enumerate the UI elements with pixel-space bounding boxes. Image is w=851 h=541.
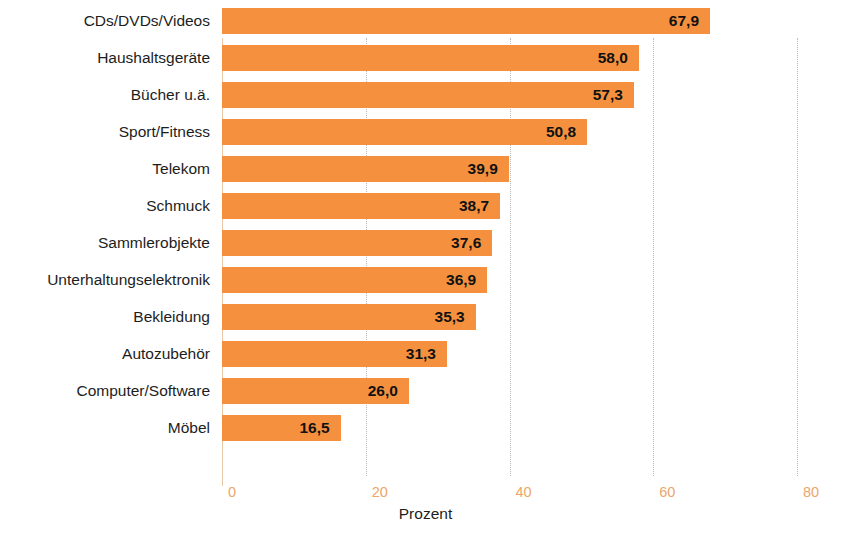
bar-row: Möbel16,5	[0, 415, 851, 452]
bar: 39,9	[222, 156, 509, 182]
bar-chart: CDs/DVDs/Videos67,9Haushaltsgeräte58,0Bü…	[0, 0, 851, 541]
category-label: Unterhaltungselektronik	[0, 267, 210, 293]
category-label: Bekleidung	[0, 304, 210, 330]
x-tick-label: 80	[803, 484, 819, 500]
bar-row: Unterhaltungselektronik36,9	[0, 267, 851, 304]
x-tick-label: 0	[228, 484, 236, 500]
bar-row: Sammlerobjekte37,6	[0, 230, 851, 267]
x-tick-label: 20	[372, 484, 388, 500]
bar-value-label: 36,9	[446, 267, 476, 293]
bar-value-label: 39,9	[468, 156, 498, 182]
bar-value-label: 37,6	[451, 230, 481, 256]
x-tick-label: 60	[659, 484, 675, 500]
bar-value-label: 38,7	[459, 193, 489, 219]
bar-rows: CDs/DVDs/Videos67,9Haushaltsgeräte58,0Bü…	[0, 8, 851, 452]
bar: 26,0	[222, 378, 409, 404]
bar: 38,7	[222, 193, 500, 219]
category-label: Bücher u.ä.	[0, 82, 210, 108]
category-label: Autozubehör	[0, 341, 210, 367]
chart-title	[0, 0, 851, 7]
bar-row: Sport/Fitness50,8	[0, 119, 851, 156]
bar-row: Computer/Software26,0	[0, 378, 851, 415]
category-label: Möbel	[0, 415, 210, 441]
bar-value-label: 16,5	[299, 415, 329, 441]
bar-value-label: 58,0	[598, 45, 628, 71]
bar-value-label: 31,3	[406, 341, 436, 367]
category-label: Schmuck	[0, 193, 210, 219]
category-label: Computer/Software	[0, 378, 210, 404]
bar-value-label: 67,9	[669, 8, 699, 34]
bar: 58,0	[222, 45, 639, 71]
bar: 35,3	[222, 304, 476, 330]
bar-row: CDs/DVDs/Videos67,9	[0, 8, 851, 45]
bar-value-label: 50,8	[546, 119, 576, 145]
category-label: Sport/Fitness	[0, 119, 210, 145]
category-label: Haushaltsgeräte	[0, 45, 210, 71]
bar: 57,3	[222, 82, 634, 108]
bar-row: Bekleidung35,3	[0, 304, 851, 341]
bar: 16,5	[222, 415, 341, 441]
bar-row: Schmuck38,7	[0, 193, 851, 230]
bar: 31,3	[222, 341, 447, 367]
bar-row: Autozubehör31,3	[0, 341, 851, 378]
category-label: Sammlerobjekte	[0, 230, 210, 256]
x-tick-label: 40	[516, 484, 532, 500]
bar-row: Telekom39,9	[0, 156, 851, 193]
bar-row: Haushaltsgeräte58,0	[0, 45, 851, 82]
bar: 67,9	[222, 8, 710, 34]
category-label: Telekom	[0, 156, 210, 182]
bar-row: Bücher u.ä.57,3	[0, 82, 851, 119]
category-label: CDs/DVDs/Videos	[0, 8, 210, 34]
x-axis-title: Prozent	[0, 505, 851, 523]
bar-value-label: 26,0	[368, 378, 398, 404]
bar-value-label: 35,3	[435, 304, 465, 330]
bar: 37,6	[222, 230, 492, 256]
bar: 36,9	[222, 267, 487, 293]
bar: 50,8	[222, 119, 587, 145]
bar-value-label: 57,3	[593, 82, 623, 108]
